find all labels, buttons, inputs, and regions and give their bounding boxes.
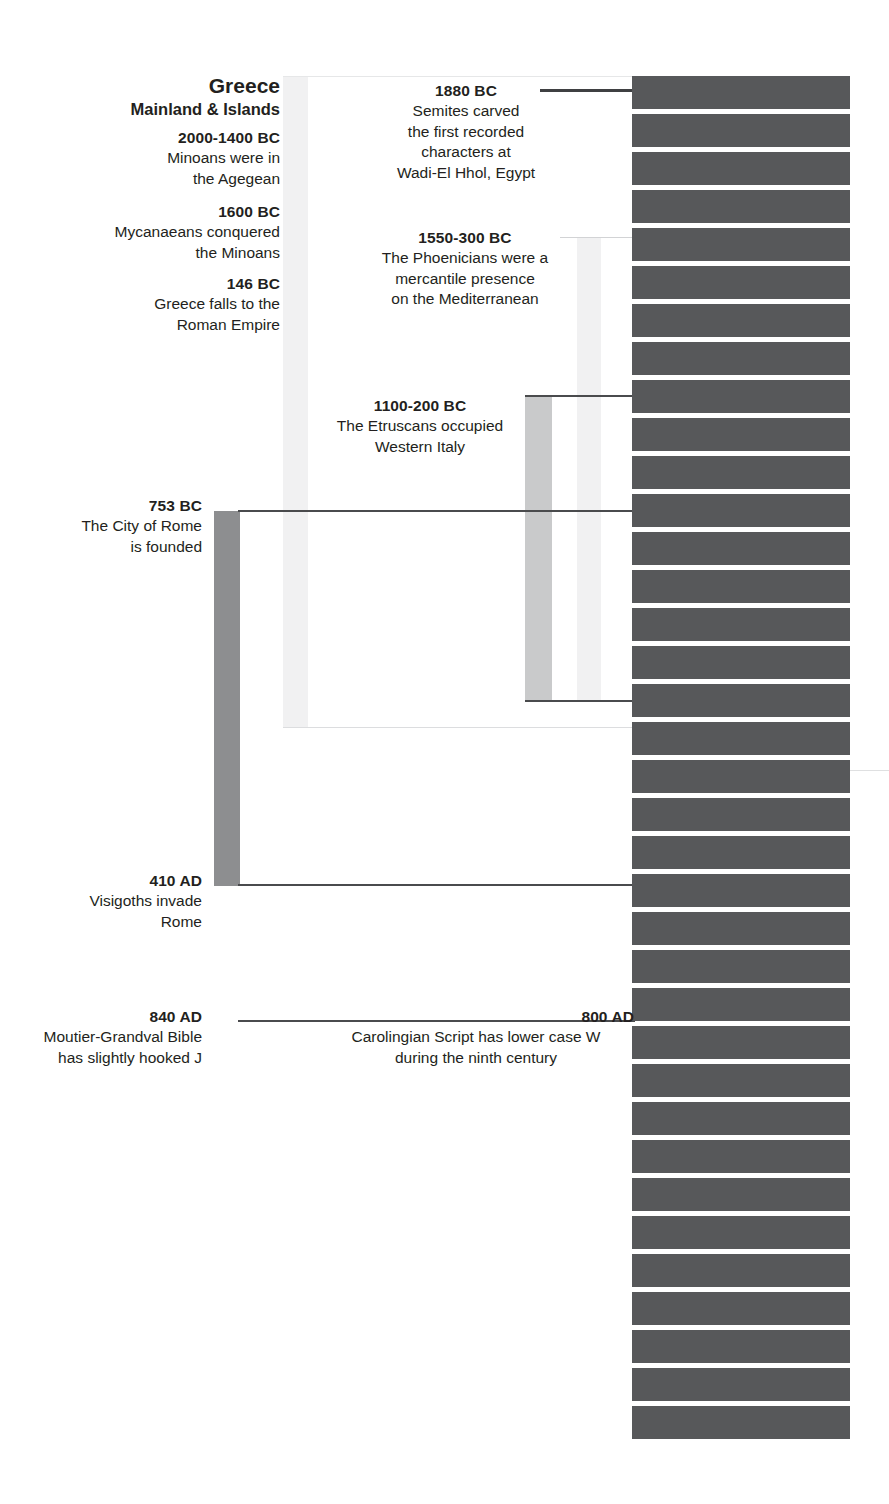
stripe-band [632, 1064, 850, 1097]
event-date: 146 BC [0, 274, 280, 294]
rule-1880bc [540, 89, 635, 92]
event-date: 753 BC [0, 496, 202, 516]
stripe-band [632, 1140, 850, 1173]
event-line: Wadi-El Hhol, Egypt [392, 163, 540, 183]
stripe-band [632, 1178, 850, 1211]
event-visigoths: 410 AD Visigoths invade Rome [0, 871, 202, 932]
stripe-band [632, 874, 850, 907]
rule-greece-top [283, 76, 633, 77]
stripe-band [632, 456, 850, 489]
event-line: during the ninth century [318, 1048, 634, 1068]
event-moutier-grandval: 840 AD Moutier-Grandval Bible has slight… [0, 1007, 202, 1068]
stripe-band [632, 608, 850, 641]
event-carolingian: 800 AD Carolingian Script has lower case… [318, 1007, 634, 1068]
event-date: 1100-200 BC [325, 396, 515, 416]
stripe-band [632, 304, 850, 337]
stripe-band [632, 1216, 850, 1249]
stripe-band [632, 1368, 850, 1401]
stripe-band [632, 266, 850, 299]
event-line: is founded [0, 537, 202, 557]
rule-greece-bottom [283, 727, 633, 728]
event-rome-founded: 753 BC The City of Rome is founded [0, 496, 202, 557]
stripe-band [632, 1292, 850, 1325]
stripe-band [632, 190, 850, 223]
era-bar-etruscan [525, 396, 552, 702]
stripe-band [632, 646, 850, 679]
rule-410ad [238, 884, 635, 886]
stripe-band [632, 722, 850, 755]
stripe-band [632, 760, 850, 793]
page-title: Greece [0, 74, 280, 99]
stripe-band [632, 912, 850, 945]
event-line: The Phoenicians were a [370, 248, 560, 268]
stripe-band [632, 570, 850, 603]
event-line: Rome [0, 912, 202, 932]
region-heading-block: Greece Mainland & Islands [0, 74, 280, 120]
era-bar-rome [214, 511, 240, 886]
rule-etruscan-bottom [525, 700, 635, 702]
event-line: on the Mediterranean [370, 289, 560, 309]
stripe-band [632, 988, 850, 1021]
rule-753bc [238, 510, 635, 512]
event-line: Roman Empire [0, 315, 280, 335]
stripe-band [632, 950, 850, 983]
event-line: Western Italy [325, 437, 515, 457]
event-line: Greece falls to the [0, 294, 280, 314]
event-date: 1550-300 BC [370, 228, 560, 248]
stripe-band [632, 532, 850, 565]
event-line: characters at [392, 142, 540, 162]
timeline-canvas: Greece Mainland & Islands 2000-1400 BC M… [0, 0, 889, 1504]
event-date: 800 AD [318, 1007, 634, 1027]
event-line: The Etruscans occupied [325, 416, 515, 436]
era-bar-greece [283, 76, 308, 728]
stripe-band [632, 418, 850, 451]
event-line: Carolingian Script has lower case W [318, 1027, 634, 1047]
era-bar-phoenician [577, 237, 601, 701]
stripe-band [632, 1254, 850, 1287]
stripe-band [632, 76, 850, 109]
event-greece-minoans: 2000-1400 BC Minoans were in the Agegean [0, 128, 280, 189]
event-line: has slightly hooked J [0, 1048, 202, 1068]
event-line: the first recorded [392, 122, 540, 142]
rule-right-faint [850, 770, 889, 771]
stripe-band [632, 1026, 850, 1059]
stripe-band [632, 1102, 850, 1135]
event-date: 410 AD [0, 871, 202, 891]
event-date: 1880 BC [392, 81, 540, 101]
stripe-band [632, 1330, 850, 1363]
event-line: mercantile presence [370, 269, 560, 289]
event-line: Moutier-Grandval Bible [0, 1027, 202, 1047]
stripe-band [632, 494, 850, 527]
stripe-band [632, 684, 850, 717]
event-line: the Minoans [0, 243, 280, 263]
stripe-band [632, 152, 850, 185]
rule-1550bc [560, 237, 635, 238]
rule-etruscan-top [525, 395, 635, 397]
stripe-band [632, 1406, 850, 1439]
stripe-band [632, 114, 850, 147]
stripe-band [632, 342, 850, 375]
event-greece-roman: 146 BC Greece falls to the Roman Empire [0, 274, 280, 335]
event-date: 2000-1400 BC [0, 128, 280, 148]
event-semites: 1880 BC Semites carved the first recorde… [392, 81, 540, 183]
event-line: Mycanaeans conquered [0, 222, 280, 242]
stripe-column [632, 76, 850, 1442]
event-line: the Agegean [0, 169, 280, 189]
stripe-band [632, 798, 850, 831]
event-line: Semites carved [392, 101, 540, 121]
event-greece-mycenaeans: 1600 BC Mycanaeans conquered the Minoans [0, 202, 280, 263]
event-phoenicians: 1550-300 BC The Phoenicians were a merca… [370, 228, 560, 310]
event-etruscans: 1100-200 BC The Etruscans occupied Weste… [325, 396, 515, 457]
stripe-band [632, 228, 850, 261]
event-date: 1600 BC [0, 202, 280, 222]
event-date: 840 AD [0, 1007, 202, 1027]
region-subtitle: Mainland & Islands [0, 99, 280, 120]
event-line: Visigoths invade [0, 891, 202, 911]
event-line: Minoans were in [0, 148, 280, 168]
stripe-band [632, 380, 850, 413]
event-line: The City of Rome [0, 516, 202, 536]
stripe-band [632, 836, 850, 869]
